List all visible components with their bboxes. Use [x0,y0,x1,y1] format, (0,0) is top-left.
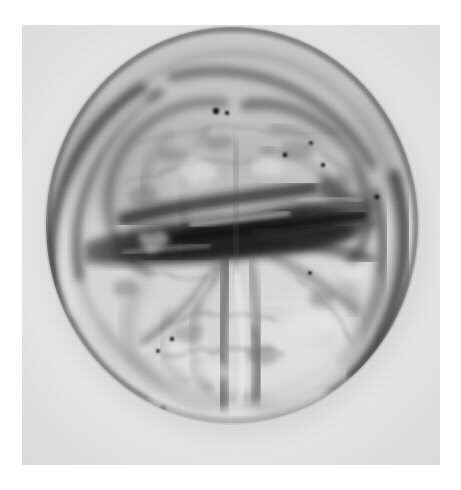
page-root [0,0,461,490]
micrograph-plate [22,25,440,465]
micrograph-canvas [22,25,440,465]
